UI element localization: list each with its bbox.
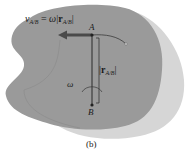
point-a-label: A	[89, 22, 95, 32]
r-subscript: A/B	[63, 19, 72, 25]
equals-sign: =	[41, 13, 47, 24]
point-a-dot	[90, 33, 93, 36]
omega-label: ω	[67, 79, 73, 89]
velocity-subscript: A/B	[29, 19, 38, 25]
point-b-label: B	[88, 107, 94, 117]
distance-label: |rA/B|	[99, 64, 116, 76]
figure-caption: (b)	[86, 139, 97, 149]
abs-bar-right: |	[114, 64, 116, 75]
abs-bar-right: |	[72, 13, 74, 24]
velocity-equation-label: vA/B = ω|rA/B|	[25, 13, 74, 25]
